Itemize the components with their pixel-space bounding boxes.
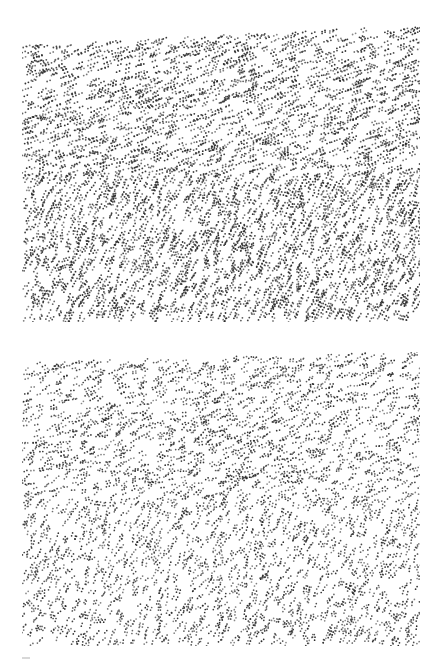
top-dot-pattern-panel [22,26,420,322]
corner-mark [22,657,30,659]
bottom-dot-pattern-panel [22,352,420,646]
